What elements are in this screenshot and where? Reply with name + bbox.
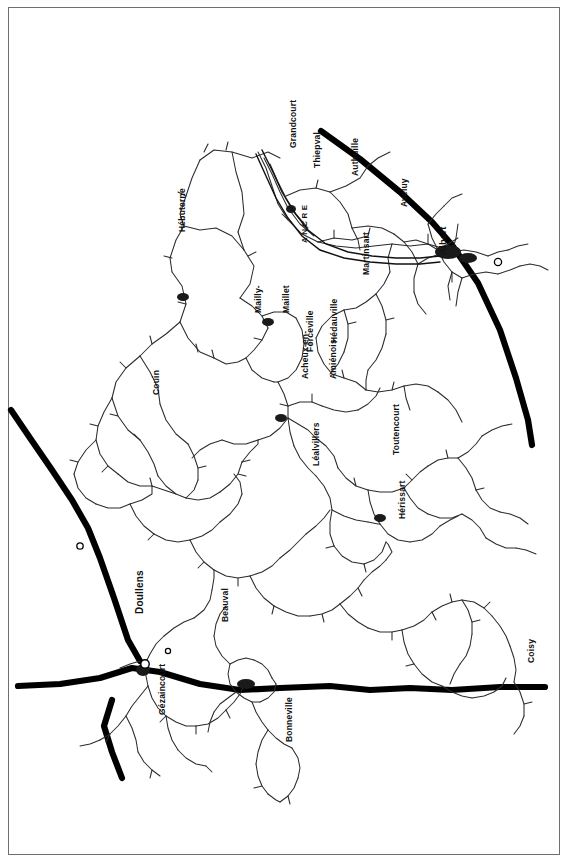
road-major-doullens-amiens	[18, 668, 545, 690]
road-major-doullens-north	[11, 410, 140, 661]
map-canvas	[0, 0, 575, 865]
map-page: Grandcourt Thiepval Authuille Aveluy Alb…	[0, 0, 575, 865]
urban-toutencourt	[374, 514, 386, 522]
urban-albert	[435, 245, 461, 259]
road-major-albert-bapaume	[321, 131, 532, 445]
urban-albert-2	[459, 253, 477, 263]
road-node-markers	[77, 258, 502, 668]
urban-acheux	[275, 414, 287, 422]
road-major-doullens-southwest	[104, 700, 122, 778]
urban-mailly	[262, 318, 274, 326]
urban-beauval	[237, 679, 255, 689]
major-road-network	[11, 131, 545, 778]
urban-hebuterne	[177, 293, 189, 301]
